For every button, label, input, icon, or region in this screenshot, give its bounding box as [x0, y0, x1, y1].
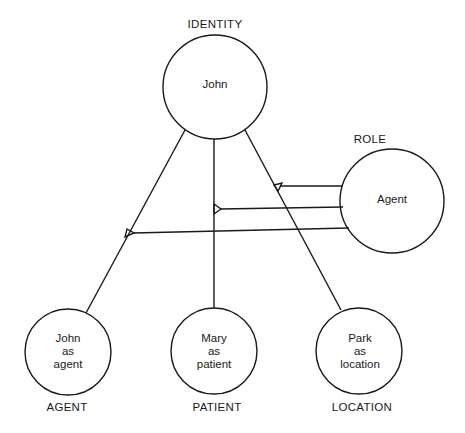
edge-role-agent-link [133, 228, 349, 233]
connector-location-icon [274, 183, 282, 191]
location-heading: LOCATION [332, 401, 392, 413]
role-label: Agent [377, 193, 407, 206]
agent-node-label: John as agent [54, 332, 83, 371]
patient-heading: PATIENT [193, 401, 242, 413]
edge-john-agent [86, 130, 185, 313]
identity-label: John [203, 78, 228, 91]
edge-john-location [245, 130, 341, 310]
edge-role-patient-link [220, 207, 343, 209]
role-heading: ROLE [354, 133, 387, 145]
agent-heading: AGENT [46, 401, 87, 413]
identity-heading: IDENTITY [188, 18, 243, 30]
connector-patient-icon [214, 204, 221, 214]
patient-node-label: Mary as patient [197, 332, 232, 371]
location-node-label: Park as location [340, 332, 380, 371]
